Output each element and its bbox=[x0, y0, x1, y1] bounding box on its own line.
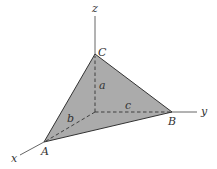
length-a-label: a bbox=[99, 79, 106, 92]
vertex-a-label: A bbox=[40, 145, 49, 158]
vertex-b-label: B bbox=[167, 115, 176, 128]
tetrahedron-diagram: z y x C B A a c b bbox=[0, 0, 217, 169]
x-axis-label: x bbox=[11, 152, 18, 165]
vertex-c-label: C bbox=[98, 46, 107, 59]
length-b-label: b bbox=[67, 112, 74, 125]
y-axis-label: y bbox=[200, 105, 208, 118]
z-axis-label: z bbox=[91, 2, 98, 15]
length-c-label: c bbox=[125, 99, 131, 112]
